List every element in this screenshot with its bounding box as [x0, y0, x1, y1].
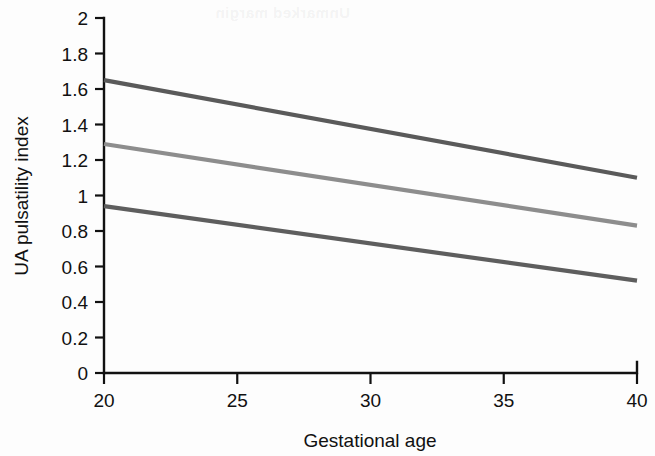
- x-tick-label: 25: [227, 390, 248, 411]
- x-axis-title: Gestational age: [303, 430, 436, 451]
- x-axis-line: [104, 362, 637, 373]
- x-tick-label: 40: [626, 390, 647, 411]
- y-tick-label: 2: [77, 8, 88, 29]
- y-tick-label: 1.8: [62, 44, 88, 65]
- series-line-median-centile: [104, 144, 637, 226]
- series-line-lower-centile: [104, 206, 637, 281]
- x-tick-label: 20: [93, 390, 114, 411]
- chart-figure: Unmarked margin UA pulsatility index Ges…: [0, 0, 655, 456]
- y-axis-ticks: 00.20.40.60.811.21.41.61.82: [62, 8, 104, 384]
- y-tick-label: 0.8: [62, 221, 88, 242]
- x-tick-label: 35: [493, 390, 514, 411]
- line-chart: UA pulsatility index Gestational age 00.…: [0, 0, 655, 456]
- y-tick-label: 0: [77, 363, 88, 384]
- y-tick-label: 1.6: [62, 79, 88, 100]
- y-tick-label: 1: [77, 186, 88, 207]
- series-line-upper-centile: [104, 80, 637, 178]
- y-tick-label: 0.6: [62, 257, 88, 278]
- y-axis-title: UA pulsatility index: [11, 116, 32, 276]
- y-tick-label: 1.4: [62, 115, 89, 136]
- y-tick-label: 0.2: [62, 328, 88, 349]
- x-tick-label: 30: [360, 390, 381, 411]
- x-axis-ticks: 2025303540: [93, 373, 647, 411]
- y-tick-label: 1.2: [62, 150, 88, 171]
- series-lines: [104, 80, 637, 281]
- y-tick-label: 0.4: [62, 292, 89, 313]
